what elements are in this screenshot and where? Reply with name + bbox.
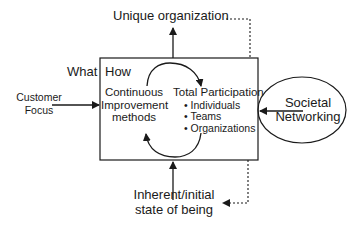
- customer-focus-line2: Focus: [14, 105, 64, 116]
- cycle-arrow-top: [147, 63, 201, 86]
- tp-title: Total Participation: [173, 87, 264, 99]
- cycle-arrow-bottom: [146, 133, 201, 157]
- ci-line1: Continuous: [101, 87, 167, 99]
- continuous-improvement-node: Continuous Improvement methods: [101, 87, 167, 124]
- bottom-label: Inherent/initial state of being: [128, 188, 220, 216]
- dotted-feedback-top: [226, 19, 250, 58]
- tp-item-individuals: • Individuals: [184, 100, 264, 111]
- bottom-label-line2: state of being: [128, 203, 220, 216]
- tp-item-organizations: • Organizations: [184, 123, 264, 134]
- bottom-label-line1: Inherent/initial: [128, 188, 220, 201]
- what-label: What: [67, 65, 97, 78]
- customer-focus-label: Customer Focus: [14, 92, 64, 115]
- how-label: How: [105, 65, 131, 78]
- societal-networking-line1: Societal: [270, 96, 346, 109]
- tp-item-teams: • Teams: [184, 111, 264, 122]
- dotted-feedback-bottom: [223, 160, 248, 203]
- top-label: Unique organization: [113, 9, 229, 22]
- customer-focus-line1: Customer: [14, 92, 64, 103]
- ci-line2: Improvement: [101, 100, 167, 112]
- societal-networking-line2: Networking: [270, 110, 346, 123]
- ci-line3: methods: [101, 112, 167, 124]
- societal-networking-label: Societal Networking: [270, 96, 346, 123]
- total-participation-node: Total Participation • Individuals • Team…: [173, 87, 264, 133]
